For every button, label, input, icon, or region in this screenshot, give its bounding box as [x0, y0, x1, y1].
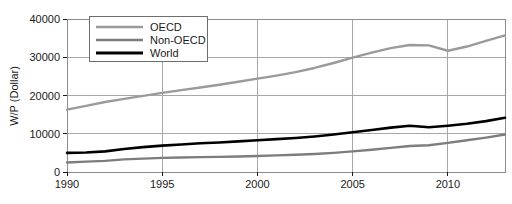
chart-container: 010000200003000040000 199019952000200520…	[0, 0, 512, 204]
x-tick-label: 2010	[436, 178, 460, 190]
legend-label-world: World	[150, 47, 179, 59]
y-axis-title: W/P (Dollar)	[8, 66, 20, 126]
line-chart: 010000200003000040000 199019952000200520…	[0, 0, 512, 204]
y-tick-label: 40000	[29, 13, 60, 25]
legend-label-oecd: OECD	[150, 21, 182, 33]
chart-legend: OECDNon-OECDWorld	[89, 16, 207, 61]
x-axis-ticks: 19901995200020052010	[55, 172, 460, 190]
x-tick-label: 2000	[245, 178, 269, 190]
x-tick-label: 2005	[340, 178, 364, 190]
legend-label-non-oecd: Non-OECD	[150, 34, 206, 46]
y-tick-label: 0	[54, 166, 60, 178]
y-tick-label: 10000	[29, 128, 60, 140]
y-tick-label: 20000	[29, 90, 60, 102]
y-axis-ticks: 010000200003000040000	[29, 13, 67, 178]
x-tick-label: 1995	[150, 178, 174, 190]
y-tick-label: 30000	[29, 51, 60, 63]
series-line-world	[67, 118, 505, 153]
x-tick-label: 1990	[55, 178, 79, 190]
